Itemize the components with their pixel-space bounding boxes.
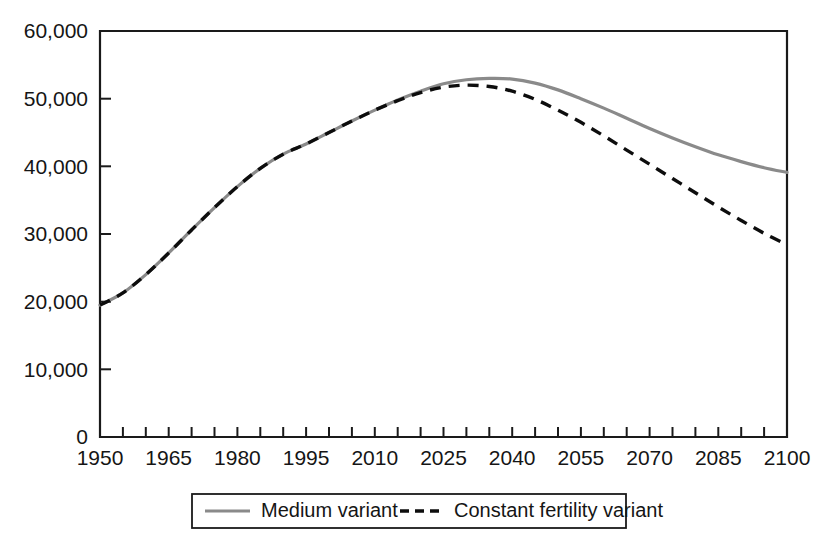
y-tick-label-50000: 50,000 bbox=[24, 87, 88, 110]
y-tick-label-30000: 30,000 bbox=[24, 222, 88, 245]
y-tick-label-10000: 10,000 bbox=[24, 358, 88, 381]
y-tick-label-40000: 40,000 bbox=[24, 155, 88, 178]
x-tick-label-2100: 2100 bbox=[764, 446, 811, 469]
x-tick-label-2025: 2025 bbox=[420, 446, 467, 469]
population-projection-chart: 0 10,000 20,000 30,000 40,000 50,000 60,… bbox=[0, 0, 818, 539]
x-tick-label-1995: 1995 bbox=[283, 446, 330, 469]
y-tick-label-0: 0 bbox=[76, 425, 88, 448]
x-tick-label-1950: 1950 bbox=[77, 446, 124, 469]
x-tick-label-2070: 2070 bbox=[626, 446, 673, 469]
y-tick-label-20000: 20,000 bbox=[24, 290, 88, 313]
x-tick-label-2055: 2055 bbox=[558, 446, 605, 469]
legend-label-medium-variant: Medium variant bbox=[261, 499, 398, 521]
x-tick-label-2010: 2010 bbox=[351, 446, 398, 469]
x-tick-label-1965: 1965 bbox=[145, 446, 192, 469]
chart-legend: Medium variant Constant fertility varian… bbox=[192, 494, 663, 528]
x-axis-tick-labels: 1950 1965 1980 1995 2010 2025 2040 2055 … bbox=[77, 446, 811, 469]
x-tick-label-2040: 2040 bbox=[489, 446, 536, 469]
x-tick-label-1980: 1980 bbox=[214, 446, 261, 469]
y-tick-label-60000: 60,000 bbox=[24, 19, 88, 42]
chart-canvas: 0 10,000 20,000 30,000 40,000 50,000 60,… bbox=[0, 0, 818, 539]
x-tick-label-2085: 2085 bbox=[695, 446, 742, 469]
legend-label-constant-fertility-variant: Constant fertility variant bbox=[454, 499, 663, 521]
